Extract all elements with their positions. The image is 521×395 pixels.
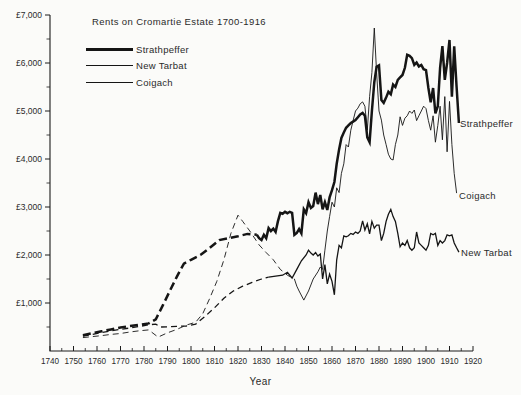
x-tick-label: 1910	[440, 357, 459, 366]
x-tick-label: 1750	[64, 357, 83, 366]
series-line-strathpeffer	[257, 40, 459, 240]
x-tick-label: 1820	[229, 357, 248, 366]
legend-label: Strathpeffer	[136, 44, 189, 55]
y-tick-label: £5,000	[16, 106, 42, 116]
coigach-line-swatch	[86, 82, 133, 83]
series-end-label-new-tarbat: New Tarbat	[461, 247, 512, 258]
x-tick-label: 1850	[299, 357, 318, 366]
x-tick-label: 1900	[417, 357, 436, 366]
x-tick-label: 1740	[41, 357, 60, 366]
x-tick-label: 1870	[346, 357, 365, 366]
x-tick-label: 1840	[276, 357, 295, 366]
rent-chart: 1740175017601770178017901800181018201830…	[0, 0, 521, 395]
y-tick-label: £6,000	[16, 58, 42, 68]
x-tick-label: 1890	[393, 357, 412, 366]
x-tick-label: 1780	[135, 357, 154, 366]
y-tick-label: £2,000	[16, 250, 42, 260]
series-end-label-strathpeffer: Strathpeffer	[460, 118, 513, 129]
y-tick-label: £7,000	[16, 10, 42, 20]
strathpeffer-line-swatch	[86, 48, 133, 51]
series-end-label-coigach: Coigach	[459, 190, 496, 201]
x-axis-title: Year	[0, 376, 521, 387]
legend-item-new-tarbat: New Tarbat	[86, 60, 187, 71]
legend-label: New Tarbat	[136, 60, 187, 71]
legend-label: Coigach	[136, 77, 173, 88]
chart-plot: 1740175017601770178017901800181018201830…	[0, 0, 521, 395]
x-tick-label: 1800	[182, 357, 201, 366]
x-tick-label: 1880	[370, 357, 389, 366]
x-tick-label: 1770	[111, 357, 130, 366]
y-tick-label: £1,000	[16, 298, 42, 308]
x-tick-label: 1810	[205, 357, 224, 366]
series-line-strathpeffer-estimated-dashed	[83, 234, 257, 335]
legend-item-strathpeffer: Strathpeffer	[86, 44, 189, 55]
legend-item-coigach: Coigach	[86, 77, 173, 88]
y-tick-label: £3,000	[16, 202, 42, 212]
series-line-coigach-estimated-dashed	[83, 215, 295, 337]
x-tick-label: 1830	[252, 357, 271, 366]
y-tick-label: £4,000	[16, 154, 42, 164]
x-tick-label: 1920	[464, 357, 483, 366]
x-tick-label: 1860	[323, 357, 342, 366]
x-tick-label: 1790	[158, 357, 177, 366]
series-line-new-tarbat-estimated-dashed	[83, 277, 269, 336]
x-tick-label: 1760	[88, 357, 107, 366]
series-line-new-tarbat	[269, 209, 459, 294]
new-tarbat-line-swatch	[86, 65, 133, 66]
chart-title: Rents on Cromartie Estate 1700-1916	[92, 16, 266, 27]
